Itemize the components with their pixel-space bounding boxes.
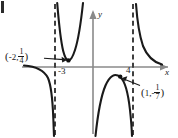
callout-left-x-value: -2, <box>9 52 19 62</box>
y-axis <box>89 10 96 134</box>
graph-canvas <box>0 0 178 138</box>
y-axis-label: y <box>98 10 102 19</box>
callout-right-close-paren: ) <box>160 86 164 98</box>
curve-middle-upper-branch <box>57 3 83 60</box>
x-tick-label-4: 4 <box>126 66 131 75</box>
callout-right-point: (1,-17) <box>141 84 164 101</box>
curve-middle-lower-branch <box>96 75 133 136</box>
curve-right-branch <box>136 4 162 65</box>
curve-left-branch <box>24 66 54 137</box>
x-axis-label: x <box>165 68 169 77</box>
x-tick-label-minus-3: -3 <box>58 67 66 76</box>
x-axis <box>22 64 168 71</box>
callout-left-point: (-2,14) <box>5 48 28 65</box>
point-marker-local-minimum <box>66 58 70 62</box>
callout-left-close-paren: ) <box>24 50 28 62</box>
rational-function-figure: y x -3 4 (-2,14) (1,-17) <box>0 0 178 138</box>
